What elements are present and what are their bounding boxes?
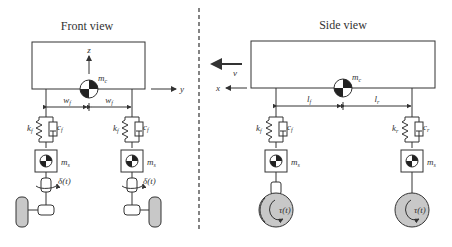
svg-text:cf: cf xyxy=(57,122,64,133)
svg-text:τ(t): τ(t) xyxy=(279,205,291,215)
unsprung-mass-center-icon xyxy=(126,155,138,167)
rear-spring-damper-icon xyxy=(402,112,423,148)
svg-text:wf: wf xyxy=(63,95,72,106)
front-left-spring-damper-icon xyxy=(36,112,57,148)
svg-text:wf: wf xyxy=(105,95,114,106)
front-right-wheel-icon xyxy=(149,197,161,227)
svg-text:cf: cf xyxy=(287,122,294,133)
front-left-steering-joint xyxy=(41,178,51,192)
svg-text:cr: cr xyxy=(423,122,430,133)
front-steering-joint xyxy=(271,182,281,194)
svg-text:ms: ms xyxy=(147,157,157,168)
unsprung-mass-center-icon xyxy=(406,155,418,167)
svg-text:kf: kf xyxy=(113,123,120,134)
suspension-diagram: Front view z mc y wf wf kf cf ms δ(t) xyxy=(0,0,452,247)
y-axis-label: y xyxy=(179,84,184,94)
body-center-of-mass-icon xyxy=(80,80,98,98)
unsprung-mass-center-icon xyxy=(270,155,282,167)
front-spring-damper-icon xyxy=(266,112,287,148)
svg-text:lr: lr xyxy=(375,94,381,105)
side-view: Side view v x mc lf lr kf cf ms τ(t) xyxy=(212,18,437,227)
z-axis-label: z xyxy=(86,45,91,55)
svg-text:ms: ms xyxy=(61,157,71,168)
front-view: Front view z mc y wf wf kf cf ms δ(t) xyxy=(16,19,184,227)
svg-text:ms: ms xyxy=(291,157,301,168)
body-center-of-mass-icon xyxy=(334,79,352,97)
svg-text:ms: ms xyxy=(427,157,437,168)
svg-text:δ(t): δ(t) xyxy=(58,176,71,186)
front-right-steering-joint xyxy=(127,178,137,192)
svg-text:kf: kf xyxy=(27,123,34,134)
front-view-title: Front view xyxy=(61,19,114,33)
svg-text:τ(t): τ(t) xyxy=(414,205,426,215)
front-left-wheel-icon xyxy=(16,197,28,227)
velocity-label: v xyxy=(233,68,237,78)
svg-text:kr: kr xyxy=(392,123,399,134)
side-view-title: Side view xyxy=(319,18,367,32)
unsprung-mass-center-icon xyxy=(40,155,52,167)
svg-text:δ(t): δ(t) xyxy=(143,176,156,186)
x-axis-label: x xyxy=(215,83,220,93)
front-right-spring-damper-icon xyxy=(122,112,143,148)
svg-text:kf: kf xyxy=(256,123,263,134)
svg-text:cf: cf xyxy=(143,122,150,133)
svg-text:lf: lf xyxy=(307,94,313,105)
